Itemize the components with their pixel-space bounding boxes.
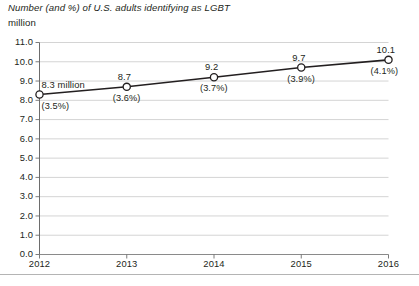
y-tick-label: 9.0 xyxy=(5,75,33,86)
data-point-value-label: 9.2 xyxy=(205,61,218,72)
y-tick-marks xyxy=(36,43,40,255)
y-tick-label: 7.0 xyxy=(5,113,33,124)
data-point-value-label: 8.3 million xyxy=(42,79,85,90)
y-tick-label: 5.0 xyxy=(5,152,33,163)
data-point-percent-label: (3.5%) xyxy=(42,101,70,111)
y-tick-label: 6.0 xyxy=(5,133,33,144)
x-tick-label: 2012 xyxy=(17,258,63,269)
y-tick-label: 11.0 xyxy=(5,36,33,47)
x-tick-label: 2013 xyxy=(104,258,150,269)
y-tick-label: 4.0 xyxy=(5,171,33,182)
chart-figure: Number (and %) of U.S. adults identifyin… xyxy=(0,0,419,286)
plot-area xyxy=(0,0,419,286)
data-point-value-label: 9.7 xyxy=(292,52,305,63)
y-tick-label: 10.0 xyxy=(5,56,33,67)
footer-divider xyxy=(0,274,419,275)
x-tick-label: 2014 xyxy=(191,258,237,269)
data-point-percent-label: (3.7%) xyxy=(200,83,228,93)
y-tick-label: 3.0 xyxy=(5,190,33,201)
data-point-percent-label: (4.1%) xyxy=(371,66,399,76)
data-point-percent-label: (3.6%) xyxy=(113,93,141,103)
data-point-percent-label: (3.9%) xyxy=(287,74,315,84)
x-tick-label: 2015 xyxy=(278,258,324,269)
y-tick-label: 1.0 xyxy=(5,229,33,240)
y-tick-label: 2.0 xyxy=(5,210,33,221)
data-point-value-label: 10.1 xyxy=(377,44,396,55)
x-tick-label: 2016 xyxy=(366,258,412,269)
y-tick-label: 8.0 xyxy=(5,94,33,105)
data-point-value-label: 8.7 xyxy=(118,71,131,82)
